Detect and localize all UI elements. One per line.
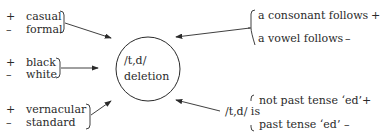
- center-label-2: deletion: [124, 71, 169, 83]
- grammatical-plus-sign: +: [362, 95, 371, 107]
- following-minus-sign: –: [345, 33, 351, 45]
- following-minus-label: a vowel follows: [258, 33, 343, 45]
- grammatical-plus-label: not past tense ‘ed’: [259, 95, 362, 107]
- dialect-plus-label: vernacular: [26, 104, 86, 116]
- following-plus-label: a consonant follows: [258, 10, 368, 22]
- style-plus-sign: +: [6, 11, 15, 23]
- grammatical-minus-label: past tense ‘ed’: [259, 119, 340, 131]
- style-plus-label: casual: [26, 11, 62, 23]
- dialect-minus-label: standard: [26, 117, 76, 129]
- center-label-1: /t,d/: [124, 55, 146, 67]
- brace-dialect: [86, 104, 90, 129]
- dialect-plus-sign: +: [6, 104, 15, 116]
- brace-following: [248, 10, 255, 45]
- deletion-circle: [116, 37, 180, 101]
- dialect-minus-sign: –: [6, 117, 12, 129]
- following-plus-sign: +: [371, 10, 380, 22]
- grammatical-minus-sign: –: [344, 119, 350, 131]
- grammatical-prefix: /t,d/ is: [225, 106, 260, 118]
- ethnicity-minus-label: white: [26, 69, 57, 81]
- style-minus-label: formal: [26, 24, 62, 36]
- style-minus-sign: –: [6, 24, 12, 36]
- ethnicity-minus-sign: –: [6, 69, 12, 81]
